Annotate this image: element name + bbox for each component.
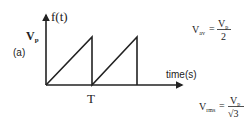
y-axis-label: f(t)	[51, 9, 68, 24]
svg-text:2: 2	[221, 31, 226, 42]
svg-text:Vrms: Vrms	[199, 101, 216, 113]
sawtooth-diagram: f(t) Vp (a) T time(s) Vav = Vp 2 Vrms	[0, 0, 249, 128]
average-formula: Vav = Vp 2	[192, 18, 231, 42]
period-label: T	[87, 91, 95, 106]
peak-label: Vp	[26, 29, 39, 44]
svg-text:Vp: Vp	[218, 18, 228, 30]
svg-text:√3: √3	[228, 108, 239, 119]
rms-formula: Vrms = Vp √3	[199, 95, 244, 119]
svg-text:Vp: Vp	[230, 95, 240, 107]
x-axis-label: time(s)	[166, 69, 197, 80]
svg-text:Vav: Vav	[192, 24, 205, 36]
sawtooth-waveform	[46, 37, 137, 85]
svg-text:=: =	[219, 100, 225, 111]
waveform-plot: f(t) Vp (a) T time(s) Vav = Vp 2 Vrms	[0, 0, 249, 128]
svg-text:=: =	[209, 23, 215, 34]
panel-label: (a)	[13, 47, 25, 58]
